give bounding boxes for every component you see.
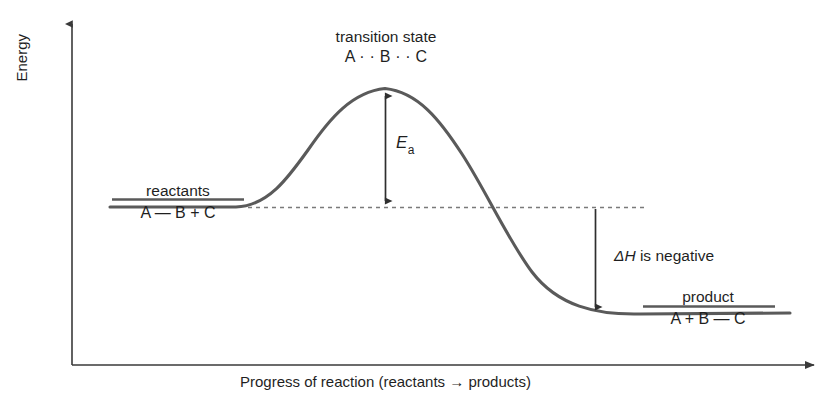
activation-energy-subscript: a	[408, 143, 415, 157]
enthalpy-statement: is negative	[636, 247, 714, 264]
transition-state-title: transition state	[336, 28, 437, 45]
activation-energy-symbol: E	[396, 133, 407, 152]
y-axis-title: Energy	[14, 0, 31, 34]
product-formula: A + B — C	[640, 310, 776, 328]
energy-diagram-figure: Energy Progress of reaction (reactants →…	[0, 0, 827, 402]
enthalpy-change-label: ΔH is negative	[614, 247, 714, 264]
product-label: product A + B — C	[640, 288, 776, 328]
reactants-formula: A — B + C	[110, 204, 246, 222]
product-title: product	[682, 288, 734, 305]
enthalpy-symbol: ΔH	[614, 247, 636, 264]
reactants-label: reactants A — B + C	[110, 182, 246, 222]
transition-state-label: transition state A · · B · · C	[311, 28, 461, 66]
x-axis-title: Progress of reaction (reactants → produc…	[240, 374, 531, 391]
transition-state-formula: A · · B · · C	[311, 48, 461, 66]
activation-energy-label: Ea	[396, 133, 414, 156]
y-axis-title-text: Energy	[14, 34, 31, 82]
reactants-title: reactants	[146, 182, 210, 199]
